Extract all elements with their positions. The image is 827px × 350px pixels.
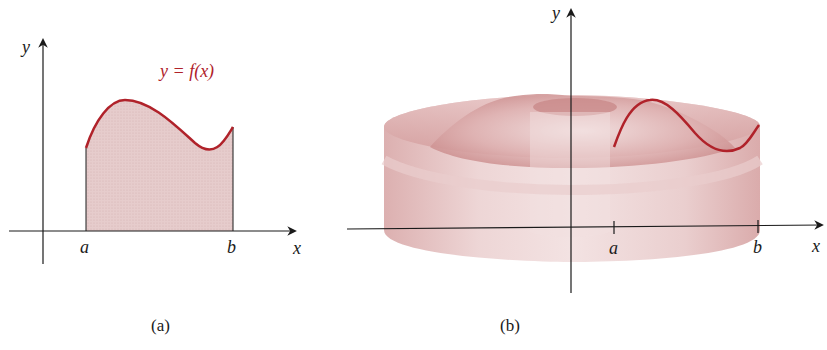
y-axis-label: y bbox=[20, 37, 30, 57]
b-label: b bbox=[753, 237, 762, 257]
a-label: a bbox=[80, 237, 89, 257]
caption-b: (b) bbox=[500, 316, 520, 335]
caption-a: (a) bbox=[151, 316, 170, 335]
b-label: b bbox=[227, 237, 236, 257]
panel-a: y x a b y = f(x) (a) bbox=[9, 37, 301, 335]
y-axis-label: y bbox=[550, 3, 560, 23]
curve-label: y = f(x) bbox=[158, 61, 214, 82]
x-axis-label: x bbox=[811, 236, 820, 256]
figure: y x a b y = f(x) (a) y x a b (b) bbox=[0, 0, 827, 350]
x-axis-label: x bbox=[292, 238, 301, 258]
a-label: a bbox=[609, 238, 618, 258]
panel-b: y x a b (b) bbox=[347, 3, 822, 335]
solid-inner-core bbox=[530, 112, 610, 237]
area-under-curve bbox=[86, 100, 233, 231]
